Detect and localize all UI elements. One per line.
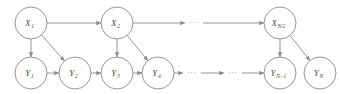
- node-yn1: YN−1: [264, 57, 296, 89]
- node-subscript-y3: 3: [116, 73, 120, 79]
- diagram-canvas: X1X2XN/2Y1Y2Y3Y4YN−1YN ·········: [0, 0, 340, 94]
- node-y2: Y2: [59, 57, 91, 89]
- node-yn: YN: [304, 57, 336, 89]
- edge-xn2-to-yn: [290, 35, 310, 60]
- node-subscript-xn2: N/2: [277, 23, 286, 29]
- node-x1: X1: [15, 7, 47, 39]
- node-subscript-y4: 4: [158, 73, 161, 79]
- node-subscript-y2: 2: [75, 73, 78, 79]
- node-subscript-x2: 2: [117, 23, 120, 29]
- node-subscript-yn: N: [318, 73, 323, 79]
- edge-x2-to-y4: [127, 35, 148, 60]
- node-xn2: XN/2: [264, 7, 296, 39]
- top-ellipsis-1: ···: [189, 18, 199, 27]
- node-layer: X1X2XN/2Y1Y2Y3Y4YN−1YN: [15, 7, 336, 89]
- bottom-ellipsis-1: ···: [187, 68, 197, 77]
- node-y1: Y1: [15, 57, 47, 89]
- graphical-model-figure: X1X2XN/2Y1Y2Y3Y4YN−1YN ·········: [0, 0, 340, 94]
- bottom-ellipsis-2: ···: [228, 68, 238, 77]
- node-subscript-y1: 1: [31, 73, 34, 79]
- node-subscript-yn1: N−1: [275, 73, 286, 79]
- node-y4: Y4: [142, 57, 174, 89]
- node-y3: Y3: [101, 57, 133, 89]
- ellipsis-layer: ·········: [187, 18, 238, 77]
- edge-x1-to-y2: [42, 35, 65, 61]
- node-x2: X2: [101, 7, 133, 39]
- node-subscript-x1: 1: [31, 23, 34, 29]
